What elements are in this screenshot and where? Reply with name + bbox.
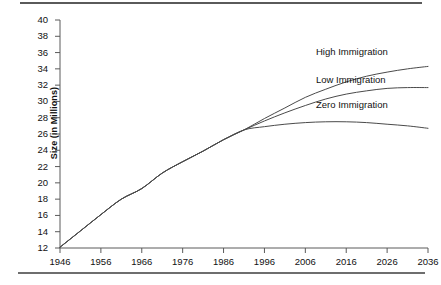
x-tick-label: 1976 xyxy=(163,256,203,267)
x-tick-label: 1966 xyxy=(122,256,162,267)
y-tick-label: 20 xyxy=(26,177,48,188)
chart-figure: Size (in Millions) 121416182022242628303… xyxy=(0,0,441,285)
x-tick-label: 1946 xyxy=(40,256,80,267)
x-tick-label: 2016 xyxy=(326,256,366,267)
plot-area xyxy=(0,0,441,285)
x-tick-label: 2026 xyxy=(367,256,407,267)
y-tick-label: 32 xyxy=(26,79,48,90)
y-tick-label: 24 xyxy=(26,144,48,155)
x-tick-label: 1986 xyxy=(204,256,244,267)
x-tick-label: 1956 xyxy=(81,256,121,267)
series-line-low-immigration xyxy=(60,88,428,248)
y-tick-label: 36 xyxy=(26,47,48,58)
y-tick-label: 40 xyxy=(26,14,48,25)
y-tick-label: 34 xyxy=(26,63,48,74)
series-line-zero-immigration xyxy=(60,122,428,248)
x-axis-ticks xyxy=(60,248,428,253)
series-label: Low Immigration xyxy=(316,74,386,85)
y-tick-label: 26 xyxy=(26,128,48,139)
y-tick-label: 16 xyxy=(26,209,48,220)
series-line-high-immigration xyxy=(60,66,428,247)
x-tick-label: 1996 xyxy=(244,256,284,267)
series-label: Zero Immigration xyxy=(316,99,388,110)
y-tick-label: 30 xyxy=(26,95,48,106)
y-tick-label: 12 xyxy=(26,242,48,253)
series-label: High Immigration xyxy=(316,46,388,57)
y-tick-label: 22 xyxy=(26,161,48,172)
x-tick-label: 2006 xyxy=(285,256,325,267)
y-tick-label: 38 xyxy=(26,30,48,41)
series-lines xyxy=(60,66,428,247)
y-axis-ticks xyxy=(55,20,60,248)
y-tick-label: 18 xyxy=(26,193,48,204)
y-tick-label: 28 xyxy=(26,112,48,123)
y-tick-label: 14 xyxy=(26,226,48,237)
x-tick-label: 2036 xyxy=(408,256,441,267)
